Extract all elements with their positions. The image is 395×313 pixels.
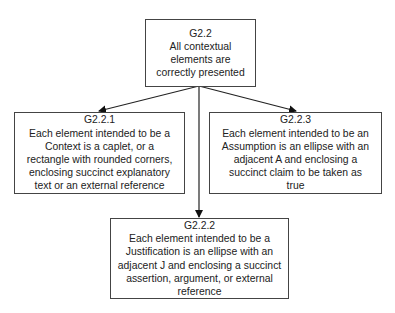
goal-id: G2.2.3: [213, 113, 378, 126]
goal-text: Each element intended to be an Assumptio…: [213, 127, 378, 193]
goal-node-g2-2-2: G2.2.2 Each element intended to be a Jus…: [110, 218, 289, 299]
edge-g22-to-g223: [199, 86, 296, 111]
edge-g22-to-g221: [99, 86, 199, 111]
goal-text: All contextual elements are correctly pr…: [149, 40, 252, 80]
goal-node-g2-2: G2.2 All contextual elements are correct…: [145, 19, 256, 87]
goal-id: G2.2.1: [18, 113, 181, 126]
goal-text: Each element intended to be a Context is…: [18, 127, 181, 193]
goal-node-g2-2-1: G2.2.1 Each element intended to be a Con…: [14, 112, 185, 194]
goal-id: G2.2.2: [114, 219, 285, 232]
goal-text: Each element intended to be a Justificat…: [114, 232, 285, 298]
goal-node-g2-2-3: G2.2.3 Each element intended to be an As…: [209, 112, 382, 194]
goal-id: G2.2: [149, 27, 252, 40]
